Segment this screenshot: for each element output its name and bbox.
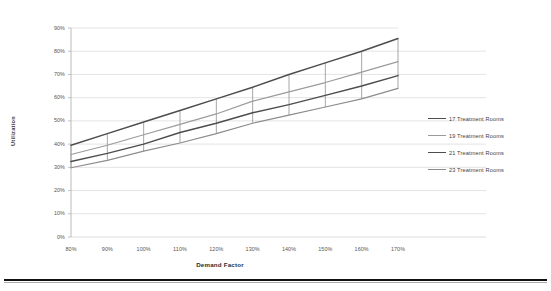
y-tick-label-10%: 10% [37,210,65,216]
x-tick-label-160%: 160% [347,246,377,252]
y-tick-label-70%: 70% [37,71,65,77]
y-tick-label-90%: 90% [37,25,65,31]
x-tick-label-90%: 90% [92,246,122,252]
utilization-line-chart: Utilization Demand Factor 0%10%20%30%40%… [0,0,551,291]
y-tick-label-20%: 20% [37,187,65,193]
legend-swatch-line-icon [428,118,446,119]
series-line-1 [71,38,398,145]
x-tick-label-150%: 150% [310,246,340,252]
legend-item-4[interactable]: 23 Treatment Rooms [428,161,548,178]
y-tick-label-40%: 40% [37,141,65,147]
x-tick-label-140%: 140% [274,246,304,252]
legend-item-2[interactable]: 19 Treatment Rooms [428,127,548,144]
y-tick-label-0%: 0% [37,234,65,240]
page-root: Utilization Demand Factor 0%10%20%30%40%… [0,0,551,291]
legend-swatch-line-icon [428,152,446,153]
legend-item-3[interactable]: 21 Treatment Rooms [428,144,548,161]
x-tick-label-80%: 80% [56,246,86,252]
legend-item-label: 23 Treatment Rooms [449,167,504,173]
series-line-2 [71,62,398,155]
y-axis-title: Utilization [10,101,16,161]
y-tick-label-60%: 60% [37,94,65,100]
series-line-3 [71,76,398,162]
x-tick-label-100%: 100% [129,246,159,252]
legend-item-label: 21 Treatment Rooms [449,150,504,156]
x-tick-label-130%: 130% [238,246,268,252]
page-bottom-rule-shadow [4,282,547,283]
series-line-4 [71,88,398,167]
x-tick-label-120%: 120% [201,246,231,252]
page-bottom-rule [4,279,547,281]
x-tick-label-170%: 170% [383,246,413,252]
y-tick-label-80%: 80% [37,48,65,54]
x-axis-title: Demand Factor [0,261,440,268]
legend-swatch-line-icon [428,135,446,136]
legend-item-label: 17 Treatment Rooms [449,116,504,122]
legend-swatch-line-icon [428,169,446,170]
y-tick-label-50%: 50% [37,117,65,123]
y-tick-label-30%: 30% [37,164,65,170]
legend-item-label: 19 Treatment Rooms [449,133,504,139]
x-tick-label-110%: 110% [165,246,195,252]
legend-item-1[interactable]: 17 Treatment Rooms [428,110,548,127]
chart-legend: 17 Treatment Rooms19 Treatment Rooms21 T… [428,110,548,178]
